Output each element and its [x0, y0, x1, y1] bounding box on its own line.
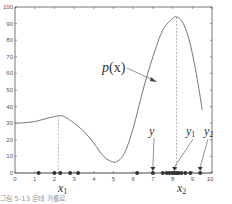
- sample-dot: [58, 171, 62, 175]
- x-tick-label: 2: [53, 176, 57, 182]
- sample-dot: [68, 171, 72, 175]
- x-tick-label: 7: [151, 176, 155, 182]
- x-tick-label: 3: [72, 176, 76, 182]
- label-x1: x1: [57, 181, 67, 196]
- sample-dot: [161, 171, 165, 175]
- label-y1: y1: [185, 124, 195, 139]
- x-tick-label: 8: [171, 176, 175, 182]
- x-tick-label: 1: [33, 176, 37, 182]
- y-tick-label: 30: [6, 120, 13, 126]
- y-tick-label: 50: [6, 87, 13, 93]
- arrow-head-icon: [150, 77, 157, 82]
- x-tick-label: 6: [132, 176, 136, 182]
- chart: 0102030405060708090100 012345678910 p(x)…: [0, 0, 232, 204]
- sample-dot: [183, 171, 187, 175]
- sample-dot: [179, 171, 183, 175]
- pdf-curve: [15, 17, 202, 163]
- y-tick-label: 80: [6, 37, 13, 43]
- sample-dot: [135, 171, 139, 175]
- y-tick-label: 20: [6, 137, 13, 143]
- y-axis-ticks: 0102030405060708090100: [3, 4, 212, 176]
- x-tick-label: 4: [92, 176, 96, 182]
- x-tick-label: 0: [13, 176, 17, 182]
- marker-triangle-icon: [150, 167, 155, 171]
- y-tick-label: 90: [6, 21, 13, 27]
- marker-triangle-icon: [198, 167, 203, 171]
- y-tick-label: 60: [6, 70, 13, 76]
- label-y: y: [148, 124, 155, 138]
- plot-frame: [15, 7, 212, 173]
- y-tick-label: 70: [6, 54, 13, 60]
- x-axis-ticks: 012345678910: [13, 7, 214, 182]
- sample-markers: [150, 138, 208, 171]
- sample-dot: [76, 171, 80, 175]
- label-x2: x2: [176, 181, 186, 196]
- sample-dot: [52, 171, 56, 175]
- y-tick-label: 40: [6, 104, 13, 110]
- sample-dot: [151, 171, 155, 175]
- x-tick-label: 10: [207, 176, 214, 182]
- sample-dot: [198, 171, 202, 175]
- x-tick-label: 9: [191, 176, 195, 182]
- curve-label: p(x): [101, 60, 126, 76]
- y-tick-label: 10: [6, 153, 13, 159]
- sample-dot: [37, 171, 41, 175]
- figure-caption: 그림 5-13 몬테 카를로: [0, 195, 90, 204]
- y-tick-label: 100: [3, 4, 14, 10]
- x-tick-label: 5: [112, 176, 116, 182]
- sample-dot: [188, 171, 192, 175]
